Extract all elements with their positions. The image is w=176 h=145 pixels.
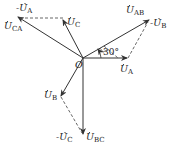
phasor-negUB: [128, 22, 148, 58]
label-negUC: -UC: [56, 131, 73, 144]
angle-arc: [98, 49, 101, 58]
label-UAB: UAB: [126, 4, 144, 17]
phasor-negUC: [61, 97, 82, 133]
angle-label: 30°: [103, 47, 119, 57]
label-UCA: UCA: [4, 20, 23, 33]
label-negUB: -UB: [150, 17, 166, 30]
label-UA: UA: [120, 63, 134, 76]
label-UBC: UBC: [86, 131, 105, 144]
label-UC: UC: [67, 16, 80, 29]
origin-label: O: [75, 59, 83, 70]
label-UB: UB: [44, 89, 57, 102]
phasor-diagram: 30° O UA UAB -UB UC -UA UCA UB -UC UBC: [0, 0, 176, 145]
